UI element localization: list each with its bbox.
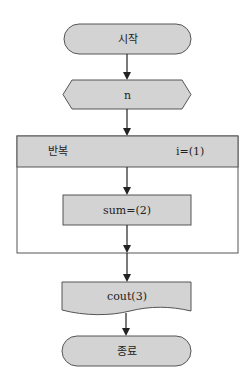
arrow-input-to-loop	[123, 109, 131, 136]
start-label: 시작	[118, 33, 138, 46]
process-node: sum=(2)	[63, 195, 191, 225]
arrow-output-to-end	[122, 313, 130, 336]
process-label: sum=(2)	[103, 204, 151, 217]
end-node: 종료	[62, 336, 191, 366]
output-node: cout(3)	[62, 282, 191, 315]
input-node: n	[63, 80, 191, 109]
end-label: 종료	[117, 345, 137, 358]
flowchart: 시작 n 반복 i=(1) sum=(2) co	[0, 0, 251, 387]
loop-condition: i=(1)	[176, 145, 204, 158]
output-label: cout(3)	[107, 290, 147, 303]
arrow-loop-to-output	[123, 253, 131, 282]
arrow-start-to-input	[123, 54, 131, 80]
loop-label: 반복	[48, 145, 68, 158]
input-label: n	[124, 89, 131, 102]
start-node: 시작	[64, 24, 191, 54]
